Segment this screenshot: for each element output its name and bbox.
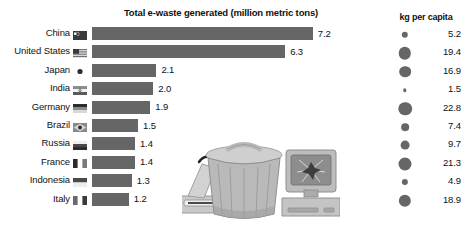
bubble: [399, 66, 411, 78]
bar-value-label: 6.3: [290, 46, 303, 57]
bubble: [401, 123, 409, 131]
legend-value-label: 5.2: [425, 28, 461, 39]
legend-row-united-states: 19.4: [385, 44, 467, 62]
legend-value-label: 21.3: [425, 157, 461, 168]
country-label: Indonesia: [0, 174, 70, 185]
bar: [92, 119, 138, 132]
bubble-marker: [385, 44, 425, 62]
country-label: Italy: [0, 193, 70, 204]
bubble: [403, 88, 406, 91]
legend-value-label: 9.7: [425, 138, 461, 149]
bar: [92, 82, 153, 95]
bar-value-label: 1.4: [140, 138, 153, 149]
bubble: [402, 32, 408, 38]
bubble-marker: [385, 136, 425, 154]
flag-china-icon: [73, 31, 87, 40]
bubble-marker: [385, 192, 425, 210]
bubble: [401, 141, 410, 150]
bar: [92, 45, 285, 58]
legend-row-brazil: 7.4: [385, 118, 467, 136]
bubble-marker: [385, 155, 425, 173]
bar-value-label: 1.2: [134, 193, 147, 204]
bar: [92, 193, 129, 206]
bar: [92, 137, 135, 150]
bar: [92, 156, 135, 169]
bubble: [398, 157, 411, 170]
chart-row-japan: Japan2.1: [0, 63, 380, 81]
bar-value-label: 2.0: [158, 83, 171, 94]
legend-value-label: 19.4: [425, 46, 461, 57]
legend-row-china: 5.2: [385, 26, 467, 44]
bar: [92, 64, 156, 77]
bar: [92, 174, 132, 187]
country-label: China: [0, 27, 70, 38]
chart-row-united-states: United States6.3: [0, 44, 380, 62]
bar-value-label: 1.9: [155, 101, 168, 112]
bar-value-label: 1.5: [143, 120, 156, 131]
flag-russia-icon: [73, 141, 87, 150]
bubble: [402, 179, 408, 185]
computer-tower-icon: [282, 198, 340, 216]
country-label: Japan: [0, 64, 70, 75]
bubble: [398, 102, 412, 116]
legend-row-italy: 18.9: [385, 192, 467, 210]
country-label: Russia: [0, 137, 70, 148]
country-label: France: [0, 156, 70, 167]
bar: [92, 27, 313, 40]
flag-indonesia-icon: [73, 178, 87, 187]
bubble: [399, 47, 411, 59]
bar-value-label: 1.3: [137, 175, 150, 186]
legend-value-label: 18.9: [425, 194, 461, 205]
flag-india-icon: [73, 86, 87, 95]
legend-row-germany: 22.8: [385, 100, 467, 118]
country-label: Germany: [0, 101, 70, 112]
legend-row-france: 21.3: [385, 155, 467, 173]
e-waste-chart-figure: Total e-waste generated (million metric …: [0, 0, 467, 228]
trash-can-icon: [206, 145, 282, 220]
legend-row-indonesia: 4.9: [385, 173, 467, 191]
flag-italy-icon: [73, 196, 87, 205]
legend-value-label: 4.9: [425, 175, 461, 186]
legend-value-label: 22.8: [425, 102, 461, 113]
country-label: United States: [0, 45, 70, 56]
bar: [92, 101, 150, 114]
chart-title: Total e-waste generated (million metric …: [82, 7, 360, 18]
bar-value-label: 2.1: [161, 64, 174, 75]
legend-row-india: 1.5: [385, 81, 467, 99]
bubble: [399, 194, 411, 206]
legend-value-label: 16.9: [425, 65, 461, 76]
flag-germany-icon: [73, 104, 87, 113]
bar-value-label: 7.2: [318, 28, 331, 39]
bar-value-label: 1.4: [140, 156, 153, 167]
legend-value-label: 7.4: [425, 120, 461, 131]
bubble-marker: [385, 26, 425, 44]
flag-france-icon: [73, 159, 87, 168]
flag-brazil-icon: [73, 123, 87, 132]
legend-title: kg per capita: [385, 12, 467, 22]
legend-value-label: 1.5: [425, 83, 461, 94]
legend-row-japan: 16.9: [385, 63, 467, 81]
chart-row-china: China7.2: [0, 26, 380, 44]
flag-japan-icon: [73, 67, 87, 76]
bubble-marker: [385, 173, 425, 191]
cutoff-footnote: [0, 223, 200, 227]
chart-row-india: India2.0: [0, 81, 380, 99]
country-label: India: [0, 82, 70, 93]
kg-per-capita-legend: kg per capita 5.219.416.91.522.87.49.721…: [385, 12, 467, 218]
chart-row-germany: Germany1.9: [0, 100, 380, 118]
bubble-marker: [385, 63, 425, 81]
bubble-marker: [385, 118, 425, 136]
legend-row-russia: 9.7: [385, 136, 467, 154]
crt-monitor-icon: [286, 150, 336, 197]
bubble-marker: [385, 81, 425, 99]
country-label: Brazil: [0, 119, 70, 130]
flag-united-states-icon: [73, 49, 87, 58]
bubble-marker: [385, 100, 425, 118]
e-waste-illustration: [182, 128, 340, 224]
